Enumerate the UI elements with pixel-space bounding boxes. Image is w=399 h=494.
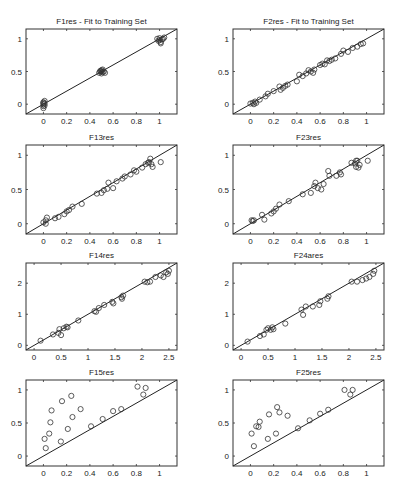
x-tick-label: 0.6 <box>108 469 120 478</box>
y-tick-label: 0.5 <box>11 419 23 428</box>
x-tick-label: 1 <box>157 237 162 246</box>
x-tick-label: 0.8 <box>338 237 350 246</box>
x-tick-label: 0.5 <box>262 353 274 362</box>
y-tick-label: 0.5 <box>11 68 23 77</box>
y-tick-label: 1 <box>18 35 23 44</box>
x-tick-label: 0.5 <box>55 353 67 362</box>
y-tick-label: 2 <box>18 279 23 288</box>
x-tick-label: 0 <box>248 117 253 126</box>
x-tick-label: 0 <box>239 353 244 362</box>
y-tick-label: 1 <box>225 310 230 319</box>
x-tick-label: 0.4 <box>291 469 303 478</box>
y-tick-label: 0.5 <box>218 186 230 195</box>
y-tick-label: 0 <box>225 220 230 229</box>
x-tick-label: 1 <box>364 469 369 478</box>
subplot-title: F25res <box>296 368 321 377</box>
y-tick-label: 0 <box>18 100 23 109</box>
x-tick-label: 0.2 <box>268 117 280 126</box>
subplot-title: F24ares <box>294 251 323 260</box>
x-tick-label: 0.6 <box>315 117 327 126</box>
y-tick-label: 0 <box>225 341 230 350</box>
x-tick-label: 0.8 <box>338 469 350 478</box>
subplot-f1res: F1res - Fit to Training Set00.20.40.60.8… <box>11 17 177 126</box>
subplot-f24ares: F24ares00.511.522.5012 <box>225 251 384 362</box>
subplot-title: F13res <box>89 133 114 142</box>
x-tick-label: 0.2 <box>61 469 73 478</box>
x-tick-label: 1.5 <box>316 353 328 362</box>
x-tick-label: 0.6 <box>315 237 327 246</box>
subplot-title: F15res <box>89 368 114 377</box>
subplot-title: F14res <box>89 251 114 260</box>
y-tick-label: 0 <box>18 220 23 229</box>
x-tick-label: 0.2 <box>61 117 73 126</box>
x-tick-label: 1 <box>364 117 369 126</box>
x-tick-label: 0.6 <box>108 117 120 126</box>
x-tick-label: 0 <box>41 117 46 126</box>
x-tick-label: 0 <box>32 353 37 362</box>
subplot-f14res: F14res00.511.522.5012 <box>18 251 177 362</box>
x-tick-label: 2.5 <box>370 353 382 362</box>
y-tick-label: 0 <box>225 100 230 109</box>
x-tick-label: 0.4 <box>84 469 96 478</box>
x-tick-label: 0 <box>248 469 253 478</box>
y-tick-label: 0.5 <box>11 186 23 195</box>
y-tick-label: 2 <box>225 279 230 288</box>
subplot-f25res: F25res00.20.40.60.8100.51 <box>218 368 384 478</box>
y-tick-label: 1 <box>225 35 230 44</box>
subplot-f23res: F23res00.20.40.60.8100.51 <box>218 133 384 246</box>
x-tick-label: 0.2 <box>61 237 73 246</box>
x-tick-label: 1 <box>157 117 162 126</box>
x-tick-label: 1 <box>364 237 369 246</box>
x-tick-label: 1 <box>293 353 298 362</box>
y-tick-label: 1 <box>225 151 230 160</box>
x-tick-label: 2 <box>140 353 145 362</box>
x-tick-label: 0.6 <box>108 237 120 246</box>
subplot-f2res: F2res - Fit to Training Set00.20.40.60.8… <box>218 17 384 126</box>
y-tick-label: 1 <box>18 310 23 319</box>
x-tick-label: 0 <box>41 469 46 478</box>
y-tick-label: 0.5 <box>218 68 230 77</box>
subplot-title: F23res <box>296 133 321 142</box>
y-tick-label: 0 <box>18 341 23 350</box>
x-tick-label: 0.8 <box>131 117 143 126</box>
y-tick-label: 1 <box>225 386 230 395</box>
x-tick-label: 2.5 <box>163 353 175 362</box>
x-tick-label: 1 <box>157 469 162 478</box>
x-tick-label: 2 <box>347 353 352 362</box>
x-tick-label: 0 <box>41 237 46 246</box>
subplot-f13res: F13res00.20.40.60.8100.51 <box>11 133 177 246</box>
x-tick-label: 0.4 <box>84 237 96 246</box>
x-tick-label: 1.5 <box>109 353 121 362</box>
subplot-title: F2res - Fit to Training Set <box>263 17 354 26</box>
x-tick-label: 0.2 <box>268 469 280 478</box>
x-tick-label: 0.8 <box>131 237 143 246</box>
x-tick-label: 0.6 <box>315 469 327 478</box>
x-tick-label: 0.2 <box>268 237 280 246</box>
x-tick-label: 0.8 <box>131 469 143 478</box>
subplot-title: F1res - Fit to Training Set <box>56 17 147 26</box>
y-tick-label: 0.5 <box>218 419 230 428</box>
x-tick-label: 0.4 <box>291 117 303 126</box>
figure-canvas: F1res - Fit to Training Set00.20.40.60.8… <box>0 0 399 494</box>
x-tick-label: 0 <box>248 237 253 246</box>
y-tick-label: 1 <box>18 386 23 395</box>
y-tick-label: 0 <box>225 452 230 461</box>
x-tick-label: 0.8 <box>338 117 350 126</box>
y-tick-label: 1 <box>18 151 23 160</box>
subplot-f15res: F15res00.20.40.60.8100.51 <box>11 368 177 478</box>
y-tick-label: 0 <box>18 452 23 461</box>
x-tick-label: 0.4 <box>291 237 303 246</box>
x-tick-label: 0.4 <box>84 117 96 126</box>
x-tick-label: 1 <box>86 353 91 362</box>
